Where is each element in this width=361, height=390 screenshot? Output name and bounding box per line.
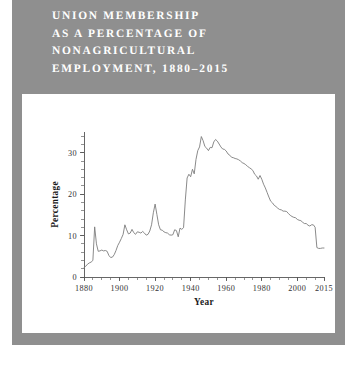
figure-title: UNION MEMBERSHIP AS A PERCENTAGE OF NONA… (52, 8, 332, 78)
y-tick-label: 20 (68, 190, 77, 199)
y-tick-label: 10 (68, 232, 77, 241)
x-axis-title: Year (194, 297, 214, 307)
x-tick-label: 1960 (217, 284, 235, 293)
data-series-line (84, 137, 324, 268)
y-axis-title: Percentage (50, 181, 60, 228)
x-tick-label: 1920 (146, 284, 164, 293)
x-tick-label: 1900 (111, 284, 129, 293)
x-tick-label: 2000 (288, 284, 306, 293)
figure-block: UNION MEMBERSHIP AS A PERCENTAGE OF NONA… (12, 0, 345, 345)
x-tick-label: 1980 (253, 284, 271, 293)
x-tick-label: 1880 (75, 284, 93, 293)
line-chart: 010203018801900192019401960198020002015Y… (22, 94, 335, 333)
x-tick-label: 2015 (315, 284, 333, 293)
y-tick-label: 30 (68, 149, 77, 158)
chart-panel: 010203018801900192019401960198020002015Y… (22, 94, 335, 333)
x-tick-label: 1940 (182, 284, 200, 293)
y-tick-label: 0 (73, 273, 78, 282)
